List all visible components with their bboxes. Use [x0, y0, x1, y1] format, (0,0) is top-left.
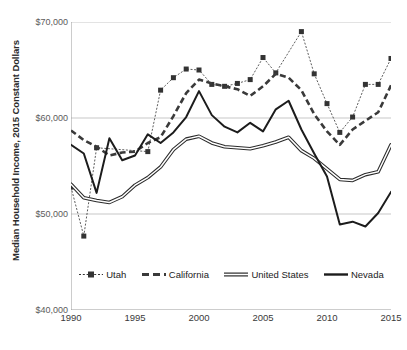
y-axis-title-text: Median Household Income, 2015 Constant D… [10, 40, 21, 261]
series-marker [145, 149, 150, 154]
series-marker [261, 55, 266, 60]
x-axis-tick-label: 1990 [60, 312, 81, 323]
series-marker [389, 56, 392, 61]
series-nevada [71, 91, 391, 226]
legend-swatch-double-line [223, 269, 249, 280]
series-marker [325, 101, 330, 106]
series-marker [184, 67, 189, 72]
series-marker [312, 71, 317, 76]
series-marker [171, 75, 176, 80]
legend-label: Nevada [351, 269, 384, 280]
legend-label: United States [251, 269, 308, 280]
series-marker [248, 77, 253, 82]
series-marker [350, 115, 355, 120]
series-line [71, 91, 391, 226]
chart-legend: UtahCaliforniaUnited StatesNevada [71, 265, 391, 283]
series-marker [197, 68, 202, 73]
x-axis-tick-label: 2005 [252, 312, 273, 323]
series-marker [363, 82, 368, 87]
series-utah [71, 29, 391, 238]
x-axis-tick-label: 1995 [124, 312, 145, 323]
series-marker [376, 82, 381, 87]
legend-label: Utah [106, 269, 126, 280]
series-line [71, 74, 391, 156]
y-axis-tick-label: $50,000 [24, 209, 68, 219]
series-united-states [71, 136, 391, 202]
y-axis-title: Median Household Income, 2015 Constant D… [4, 0, 26, 300]
legend-item-united-states[interactable]: United States [223, 269, 308, 280]
series-california [71, 74, 391, 156]
x-axis-tick-label: 2010 [316, 312, 337, 323]
legend-swatch-solid [323, 269, 349, 280]
legend-swatch-dashed [141, 269, 167, 280]
legend-item-california[interactable]: California [141, 269, 209, 280]
series-marker [235, 81, 240, 86]
series-marker [299, 29, 304, 34]
x-axis-tick-label: 2000 [188, 312, 209, 323]
y-axis-tick-labels: $40,000$50,000$60,000$70,000 [24, 0, 68, 350]
series-marker [337, 130, 342, 135]
x-axis-tick-labels: 199019952000200520102015 [71, 312, 391, 332]
series-marker [81, 234, 86, 239]
legend-label: California [169, 269, 209, 280]
y-axis-tick-label: $60,000 [24, 113, 68, 123]
series-line-outer [71, 136, 391, 202]
legend-swatch-dotted-marker [78, 269, 104, 280]
x-axis-tick-label: 2015 [380, 312, 401, 323]
y-axis-tick-label: $70,000 [24, 17, 68, 27]
series-marker [158, 88, 163, 93]
legend-item-nevada[interactable]: Nevada [323, 269, 384, 280]
legend-item-utah[interactable]: Utah [78, 269, 126, 280]
chart-container: Median Household Income, 2015 Constant D… [0, 0, 407, 350]
series-line [71, 32, 391, 236]
